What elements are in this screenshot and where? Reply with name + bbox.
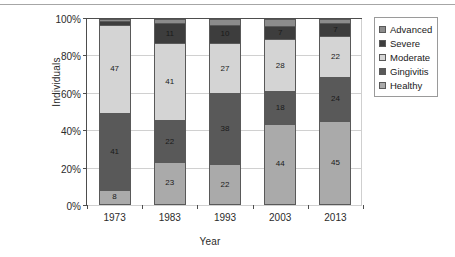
bar-column[interactable]: 211412223 (154, 19, 186, 205)
bar-segment-value: 41 (165, 78, 174, 86)
bar-column[interactable]: 310273822 (209, 19, 241, 205)
bar-segment-value: 8 (112, 193, 116, 201)
x-axis-tick (253, 205, 254, 209)
legend-swatch-icon (379, 54, 386, 61)
bar-column[interactable]: 47281844 (264, 19, 296, 205)
bar-segment-moderate[interactable]: 47 (99, 25, 131, 113)
bar-segment-gingivitis[interactable]: 24 (319, 77, 351, 122)
x-axis-tick (308, 205, 309, 209)
legend-item-label: Moderate (390, 52, 430, 63)
legend-item-gingivitis[interactable]: Gingivitis (379, 64, 432, 78)
y-axis-tick-label: 60% (61, 88, 81, 99)
bar-segment-value: 47 (110, 65, 119, 73)
x-axis-tick-label: 1973 (103, 212, 125, 223)
legend-item-label: Gingivitis (390, 66, 429, 77)
bar-segment-value: 11 (166, 30, 174, 38)
x-axis-tick-label: 1993 (214, 212, 236, 223)
legend-item-label: Severe (390, 38, 420, 49)
legend-item-label: Healthy (390, 80, 422, 91)
bar-segment-value: 44 (276, 160, 285, 168)
bar-segment-severe[interactable]: 11 (154, 23, 186, 44)
bar-segment-value: 10 (221, 30, 230, 38)
legend-item-advanced[interactable]: Advanced (379, 22, 432, 36)
bar-segment-healthy[interactable]: 22 (209, 164, 241, 205)
bar-segment-severe[interactable]: 7 (264, 26, 296, 39)
x-axis-tick-label: 2003 (269, 212, 291, 223)
legend-item-healthy[interactable]: Healthy (379, 78, 432, 92)
bar-segment-value: 38 (221, 125, 230, 133)
y-axis-tick (83, 130, 87, 131)
y-axis-tick (83, 18, 87, 19)
bar-segment-value: 45 (331, 159, 340, 167)
bar-segment-gingivitis[interactable]: 22 (154, 120, 186, 161)
bar-segment-healthy[interactable]: 44 (264, 124, 296, 205)
bar-segment-value: 22 (165, 138, 174, 146)
bar-segment-moderate[interactable]: 28 (264, 39, 296, 91)
legend-item-severe[interactable]: Severe (379, 36, 432, 50)
bar-segment-value: 41 (110, 148, 119, 156)
x-axis-tick (142, 205, 143, 209)
y-axis-title: Individuals (51, 32, 62, 132)
y-axis-tick-label: 0% (67, 201, 81, 212)
y-axis-tick-label: 20% (61, 163, 81, 174)
bar-segment-moderate[interactable]: 41 (154, 43, 186, 120)
bar-segment-value: 22 (331, 53, 340, 61)
bar-segment-gingivitis[interactable]: 38 (209, 93, 241, 164)
bar-column[interactable]: 1247418 (99, 19, 131, 205)
bar-segment-severe[interactable]: 7 (319, 23, 351, 36)
bar-segment-advanced[interactable]: 4 (264, 19, 296, 26)
bar-segment-gingivitis[interactable]: 18 (264, 91, 296, 124)
y-axis-tick (83, 168, 87, 169)
y-axis-tick-label: 80% (61, 51, 81, 62)
gridline (87, 205, 362, 206)
bar-segment-value: 28 (276, 62, 285, 70)
x-axis-tick (197, 205, 198, 209)
bar-segment-healthy[interactable]: 45 (319, 121, 351, 205)
stacked-bar-chart: Individuals Year 0%20%40%60%80%100%12474… (0, 0, 455, 257)
plot-area: 0%20%40%60%80%100%1247418197321141222319… (86, 19, 362, 206)
y-axis-tick (83, 93, 87, 94)
bar-segment-severe[interactable]: 10 (209, 25, 241, 44)
legend-item-moderate[interactable]: Moderate (379, 50, 432, 64)
y-axis-tick (83, 55, 87, 56)
bar-segment-value: 24 (331, 95, 340, 103)
bar-segment-value: 7 (333, 26, 337, 34)
bar-segment-moderate[interactable]: 27 (209, 43, 241, 93)
bar-segment-moderate[interactable]: 22 (319, 36, 351, 77)
x-axis-tick (363, 205, 364, 209)
bar-segment-gingivitis[interactable]: 41 (99, 113, 131, 190)
y-axis-tick-label: 100% (55, 14, 81, 25)
legend-swatch-icon (379, 68, 386, 75)
legend-swatch-icon (379, 40, 386, 47)
bar-segment-healthy[interactable]: 8 (99, 190, 131, 205)
bar-segment-value: 22 (221, 181, 230, 189)
bar-segment-value: 7 (278, 29, 282, 37)
legend-swatch-icon (379, 82, 386, 89)
legend-item-label: Advanced (390, 24, 432, 35)
x-axis-tick-label: 1983 (159, 212, 181, 223)
bar-segment-healthy[interactable]: 23 (154, 162, 186, 205)
x-axis-tick-label: 2013 (324, 212, 346, 223)
bar-segment-value: 18 (276, 104, 285, 112)
x-axis-tick (87, 205, 88, 209)
y-axis-tick-label: 40% (61, 126, 81, 137)
bar-segment-value: 23 (165, 179, 174, 187)
bar-segment-value: 27 (221, 65, 230, 73)
x-axis-title: Year (60, 236, 360, 247)
legend-swatch-icon (379, 26, 386, 33)
chart-legend: AdvancedSevereModerateGingivitisHealthy (374, 17, 438, 97)
bar-column[interactable]: 27222445 (319, 19, 351, 205)
